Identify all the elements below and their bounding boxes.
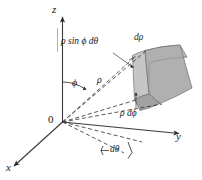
- phi-angle-label: ϕ: [72, 78, 77, 88]
- arc-theta-label: ρ sin ϕ dθ: [61, 37, 98, 47]
- d-rho-label: dρ: [134, 33, 143, 43]
- figure-canvas: [0, 0, 202, 180]
- y-axis: [63, 122, 180, 134]
- spherical-volume-element-figure: z y x 0 ϕ ρ ρ sin ϕ dθ dρ ρ dϕ dθ: [0, 0, 202, 180]
- x-axis-label: x: [6, 162, 11, 173]
- radial-line-theta-upper: [63, 122, 143, 142]
- x-axis: [14, 122, 63, 166]
- z-axis-label: z: [52, 4, 56, 15]
- rho-radius-label: ρ: [97, 75, 102, 85]
- origin-label: 0: [48, 114, 54, 125]
- y-axis-label: y: [176, 131, 181, 142]
- rho-d-phi-label: ρ dϕ: [120, 109, 137, 119]
- volume-element-solid: [133, 45, 193, 111]
- d-theta-label: dθ: [110, 145, 119, 155]
- leader-arc-theta: [113, 53, 133, 67]
- radial-line-mid-outer: [63, 104, 163, 122]
